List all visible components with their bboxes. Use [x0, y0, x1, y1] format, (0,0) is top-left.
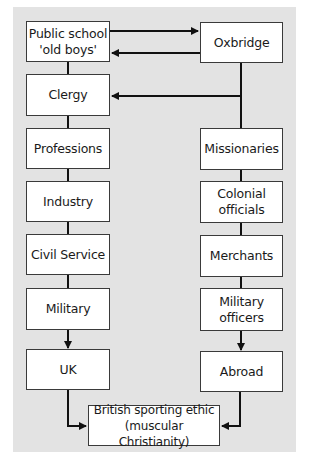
- node-label: Clergy: [49, 87, 88, 103]
- node-civil-service: Civil Service: [26, 234, 110, 275]
- node-label: Abroad: [220, 364, 263, 380]
- node-label: Public school 'old boys': [29, 26, 107, 58]
- node-military: Military: [26, 288, 110, 330]
- node-label: Military officers: [219, 294, 264, 326]
- node-british-sporting-ethic: British sporting ethic (muscular Christi…: [88, 405, 220, 446]
- arrow-abroad-to-ethic: [222, 392, 240, 426]
- node-label: Oxbridge: [214, 35, 270, 51]
- node-uk: UK: [26, 349, 110, 390]
- node-public-school: Public school 'old boys': [26, 21, 110, 62]
- node-label: Missionaries: [204, 141, 278, 157]
- node-label: Industry: [43, 194, 93, 210]
- node-label: Civil Service: [31, 247, 105, 263]
- node-label: Colonial officials: [217, 186, 265, 218]
- node-label: Merchants: [210, 248, 273, 264]
- node-colonial-officials: Colonial officials: [200, 181, 283, 223]
- node-oxbridge: Oxbridge: [200, 22, 283, 63]
- arrow-uk-to-ethic: [68, 390, 86, 426]
- node-clergy: Clergy: [26, 74, 110, 116]
- node-merchants: Merchants: [200, 235, 283, 277]
- node-professions: Professions: [26, 128, 110, 169]
- node-abroad: Abroad: [200, 351, 283, 392]
- node-label: UK: [60, 362, 77, 378]
- node-industry: Industry: [26, 181, 110, 222]
- node-military-officers: Military officers: [200, 288, 283, 331]
- node-missionaries: Missionaries: [200, 128, 283, 170]
- node-label: British sporting ethic (muscular Christi…: [89, 402, 219, 450]
- node-label: Military: [46, 301, 91, 317]
- node-label: Professions: [34, 141, 102, 157]
